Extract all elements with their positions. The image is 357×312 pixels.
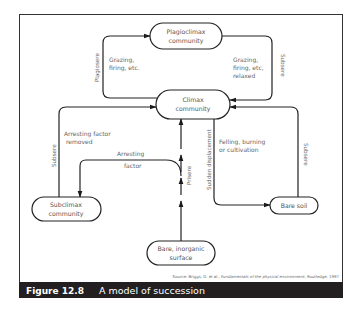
arresting-removed-1: Arresting factor — [64, 130, 111, 138]
prisere-label: Prisere — [186, 165, 192, 185]
plagioclimax-node — [150, 23, 222, 49]
subsere-left-label: Subsere — [51, 144, 57, 167]
climax-label-2: community — [176, 105, 211, 113]
grazing-right-2: firing, etc, — [233, 64, 264, 72]
sudden-displacement-label: Sudden displacement — [206, 129, 213, 190]
plagioclimax-label-1: Plagioclimax — [167, 28, 206, 36]
arresting-removed-2: removed — [66, 138, 93, 145]
figure-number: Figure 12.8 — [26, 286, 84, 296]
bare-soil-label: Bare soil — [281, 202, 308, 209]
figure-title: A model of succession — [99, 285, 205, 296]
subsere-right-label: Subsere — [303, 143, 309, 166]
plagiosere-label: Plagiosere — [94, 53, 101, 82]
succession-diagram: Plagioclimax community Climax community … — [0, 0, 357, 312]
arresting-2: factor — [124, 162, 142, 169]
grazing-right-3: relaxed — [233, 72, 255, 79]
bare-inorganic-label-1: Bare, inorganic — [158, 245, 205, 253]
arresting-1: Arresting — [117, 150, 144, 158]
grazing-left-1: Grazing, — [109, 56, 134, 64]
subclimax-label-2: community — [49, 210, 84, 218]
felling-1: Felling, burning — [219, 138, 265, 146]
subclimax-label-1: Subclimax — [50, 201, 82, 208]
grazing-right-1: Grazing, — [233, 56, 258, 64]
plagioclimax-label-2: community — [169, 37, 204, 45]
grazing-left-2: firing, etc. — [109, 64, 140, 72]
subsere-top-right-label: Subsere — [280, 54, 286, 77]
bare-inorganic-label-2: surface — [170, 254, 193, 261]
climax-label-1: Climax — [182, 96, 204, 103]
source-citation: Source: Briggs, D. et al., Fundamentals … — [173, 274, 340, 279]
felling-2: or cultivation — [219, 146, 259, 153]
